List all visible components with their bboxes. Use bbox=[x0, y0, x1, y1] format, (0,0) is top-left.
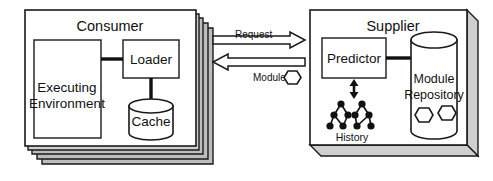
request-arrow[interactable]: Request bbox=[213, 29, 305, 48]
repository-module-hexagon-icon-2 bbox=[438, 106, 456, 120]
loader-box[interactable]: Loader bbox=[123, 40, 179, 78]
executing-environment-box[interactable]: Executing Environment bbox=[29, 40, 105, 138]
consumer-title: Consumer bbox=[77, 18, 144, 34]
consumer-panel[interactable]: Consumer Executing Environment Loader Ca… bbox=[25, 10, 196, 146]
module-repository-cylinder[interactable]: Module Repository bbox=[404, 32, 464, 139]
loader-label: Loader bbox=[130, 52, 173, 67]
module-label: Module bbox=[253, 72, 286, 83]
cache-cylinder[interactable]: Cache bbox=[129, 99, 173, 140]
module-hexagon-icon bbox=[284, 71, 301, 84]
executing-environment-label-line2: Environment bbox=[29, 96, 105, 111]
module-arrow[interactable]: Module bbox=[213, 54, 305, 84]
module-repository-label-line2: Repository bbox=[404, 88, 464, 102]
history-label: History bbox=[336, 131, 369, 143]
repository-module-hexagon-icon-1 bbox=[415, 108, 433, 122]
predictor-label: Predictor bbox=[327, 51, 382, 66]
executing-environment-label-line1: Executing bbox=[37, 80, 96, 95]
cache-label: Cache bbox=[131, 114, 170, 129]
request-label: Request bbox=[235, 29, 272, 40]
predictor-box[interactable]: Predictor bbox=[322, 38, 386, 78]
architecture-diagram: Consumer Executing Environment Loader Ca… bbox=[0, 0, 493, 181]
communication-channel: Request Module bbox=[213, 29, 305, 84]
supplier-title: Supplier bbox=[366, 18, 419, 34]
module-repository-label-line1: Module bbox=[414, 72, 455, 86]
supplier-panel[interactable]: Supplier Predictor bbox=[310, 10, 467, 145]
